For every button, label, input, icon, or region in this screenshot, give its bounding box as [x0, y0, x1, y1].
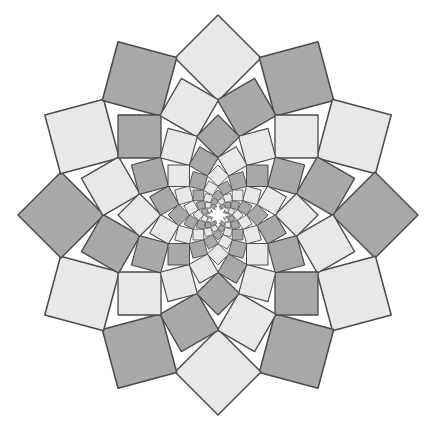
dark-square	[246, 165, 267, 186]
dark-square	[193, 190, 204, 201]
light-square	[193, 229, 204, 240]
light-square	[206, 203, 211, 208]
light-square	[168, 165, 189, 186]
light-square	[232, 190, 243, 201]
dark-square	[225, 203, 230, 208]
dark-square	[275, 272, 318, 315]
dark-square	[168, 243, 189, 264]
light-square	[275, 115, 318, 158]
dark-square	[206, 222, 211, 227]
rosette-svg	[0, 0, 437, 433]
dark-square	[232, 229, 243, 240]
dark-square	[118, 115, 161, 158]
rosette-figure	[0, 0, 437, 433]
center-star	[207, 204, 229, 226]
light-square	[118, 272, 161, 315]
light-square	[225, 222, 230, 227]
light-square	[246, 243, 267, 264]
